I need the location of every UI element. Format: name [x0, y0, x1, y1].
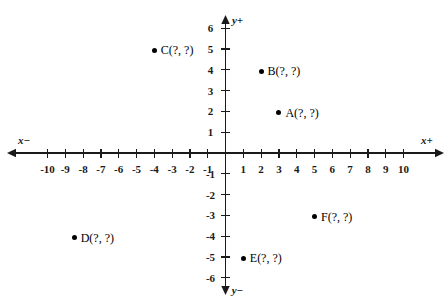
plotted-point: C(?, ?): [152, 41, 194, 57]
y-axis-tick-label: -5: [206, 252, 215, 263]
x-axis-tick-label: -3: [168, 164, 177, 175]
x-axis-tick-label: -6: [114, 164, 123, 175]
plotted-point: F(?, ?): [312, 207, 352, 223]
y-axis-tick-label: 4: [208, 64, 214, 75]
axes-lines: [7, 15, 444, 295]
x-axis-tick-label: 8: [365, 164, 371, 175]
axes-svg: [0, 0, 445, 304]
y-axis-tick-label: 3: [208, 85, 214, 96]
point-marker-icon: [152, 48, 157, 53]
x-axis-tick-label: 3: [276, 164, 282, 175]
point-label: D(?, ?): [81, 232, 114, 244]
y-axis-tick-label: 6: [208, 23, 214, 34]
plotted-point: A(?, ?): [276, 103, 318, 119]
point-marker-icon: [259, 69, 264, 74]
x-axis-tick-label: 10: [398, 164, 409, 175]
y-axis-tick-label: 1: [208, 127, 214, 138]
y-positive-axis-label: y+: [232, 15, 243, 26]
point-marker-icon: [72, 235, 77, 240]
x-positive-axis-label: x+: [421, 135, 433, 146]
x-axis-tick-label: -8: [79, 164, 88, 175]
x-axis-tick-label: 4: [294, 164, 300, 175]
y-positive-arrow-icon: [221, 15, 229, 24]
x-negative-arrow-icon: [7, 149, 16, 157]
plotted-point: B(?, ?): [259, 62, 301, 78]
x-axis-tick-label: -10: [40, 164, 55, 175]
x-axis-tick-label: 9: [383, 164, 389, 175]
y-axis-tick-label: -1: [206, 168, 215, 179]
y-negative-arrow-icon: [221, 286, 229, 295]
y-axis-tick-label: -2: [206, 189, 215, 200]
y-axis-tick-label: -6: [206, 272, 215, 283]
y-axis-tick-label: -3: [206, 210, 215, 221]
point-marker-icon: [312, 214, 317, 219]
plotted-point: E(?, ?): [241, 249, 282, 265]
point-marker-icon: [276, 110, 281, 115]
x-axis-tick-label: 7: [347, 164, 353, 175]
point-label: A(?, ?): [285, 107, 318, 119]
y-axis-tick-label: 2: [208, 106, 214, 117]
y-axis-tick-label: -4: [206, 231, 215, 242]
x-axis-tick-label: 6: [330, 164, 336, 175]
point-label: B(?, ?): [268, 65, 301, 77]
coordinate-plane: -10-9-8-7-6-5-4-3-2-112345678910654321-1…: [0, 0, 445, 304]
x-axis-tick-label: -4: [150, 164, 159, 175]
point-label: C(?, ?): [161, 44, 194, 56]
x-positive-arrow-icon: [435, 149, 444, 157]
x-axis-tick-label: 1: [241, 164, 247, 175]
x-axis-tick-label: -2: [185, 164, 194, 175]
y-axis-tick-label: 5: [208, 44, 214, 55]
plotted-point: D(?, ?): [72, 228, 114, 244]
x-axis-tick-label: 5: [312, 164, 318, 175]
y-negative-axis-label: y−: [232, 285, 244, 296]
point-label: E(?, ?): [250, 252, 282, 264]
x-axis-tick-label: -5: [132, 164, 141, 175]
point-marker-icon: [241, 256, 246, 261]
x-axis-tick-label: -7: [96, 164, 105, 175]
x-negative-axis-label: x−: [18, 135, 30, 146]
point-label: F(?, ?): [321, 211, 352, 223]
x-axis-tick-label: -9: [61, 164, 70, 175]
x-axis-tick-label: 2: [258, 164, 264, 175]
